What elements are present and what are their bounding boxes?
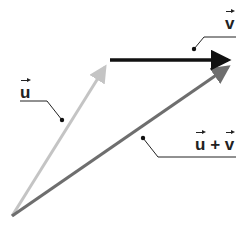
label-v: v — [225, 15, 234, 32]
label-v-text: v — [225, 15, 234, 32]
label-sum-plus: + — [210, 135, 220, 154]
leader-v — [194, 37, 236, 49]
label-sum-u: u — [195, 136, 205, 153]
label-u-plus-v: u + v — [195, 136, 234, 153]
label-u-text: u — [20, 84, 30, 101]
leader-v-dot — [192, 47, 196, 51]
vector-diagram — [0, 0, 249, 231]
label-u: u — [20, 84, 30, 101]
leader-u-dot — [60, 118, 64, 122]
leader-u-plus-v-dot — [141, 136, 145, 140]
leader-u — [20, 101, 62, 120]
label-sum-v: v — [225, 136, 234, 153]
